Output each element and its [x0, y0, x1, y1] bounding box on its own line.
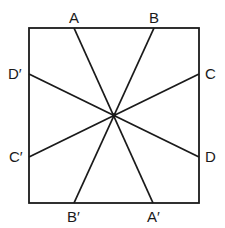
label-d: D: [205, 148, 216, 165]
label-c-prime: C′: [9, 148, 23, 165]
label-d-prime: D′: [8, 65, 22, 82]
label-b-prime: B′: [67, 208, 80, 225]
label-b: B: [149, 9, 159, 26]
label-c: C: [205, 65, 216, 82]
center-point: [112, 113, 116, 117]
label-a-prime: A′: [147, 208, 160, 225]
square-diagram: A B C D A′ B′ C′ D′: [0, 0, 225, 228]
label-a: A: [69, 9, 79, 26]
